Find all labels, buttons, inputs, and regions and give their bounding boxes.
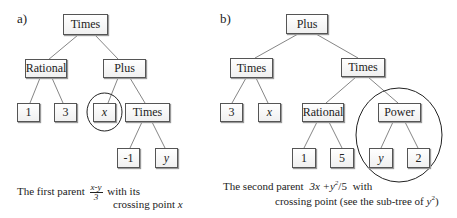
node-a-leaf-1: 1 — [17, 103, 40, 122]
panel-b-label: b) — [220, 11, 231, 27]
node-b-leaf-2: 2 — [407, 148, 430, 168]
caption-a-fraction: x-y3 — [90, 183, 103, 202]
caption-b-expression: 3x +y2/5 — [309, 180, 347, 192]
node-a-leaf-3: 3 — [54, 103, 77, 122]
node-a-rational: Rational — [25, 59, 67, 78]
node-a-plus: Plus — [103, 59, 146, 78]
node-a-times-inner: Times — [125, 103, 170, 122]
node-b-leaf-x: x — [258, 103, 281, 122]
caption-b-suffix: with — [353, 180, 373, 192]
node-b-leaf-y: y — [369, 148, 393, 168]
caption-b-line1: The second parent 3x +y2/5 with — [223, 179, 372, 192]
node-a-leaf-y: y — [155, 148, 178, 168]
caption-a-suffix: with its — [107, 185, 140, 197]
caption-a-line2-text: crossing point — [113, 198, 175, 210]
node-b-leaf-1: 1 — [292, 148, 316, 168]
expr-tail: /5 — [338, 180, 347, 192]
node-b-leaf-3: 3 — [220, 103, 243, 122]
node-b-power: Power — [378, 103, 421, 122]
caption-a-line2: crossing point x — [113, 198, 183, 210]
caption-a-prefix: The first parent — [17, 185, 85, 197]
panel-a-label: a) — [17, 11, 27, 27]
node-a-root-times: Times — [63, 14, 108, 35]
caption-b-line2-close: ) — [435, 195, 439, 207]
expr-main: 3x +y — [309, 180, 334, 192]
node-b-times-left: Times — [230, 58, 273, 78]
caption-b-line2: crossing point (see the sub-tree of y2) — [275, 194, 439, 207]
caption-a-line2-var: x — [178, 198, 183, 210]
node-b-root-plus: Plus — [286, 14, 328, 34]
node-b-rational: Rational — [302, 103, 344, 122]
node-a-leaf-x: x — [93, 103, 116, 122]
caption-b-line2-text: crossing point (see the sub-tree of — [275, 195, 424, 207]
node-a-leaf-neg1: -1 — [117, 148, 140, 168]
node-b-leaf-5: 5 — [330, 148, 354, 168]
node-b-times-right: Times — [341, 58, 385, 77]
fraction-denominator: 3 — [90, 193, 103, 202]
caption-b-prefix: The second parent — [223, 180, 304, 192]
